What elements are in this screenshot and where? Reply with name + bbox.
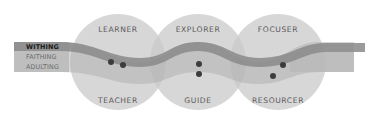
label-explorer: EXPLORER [176, 25, 221, 34]
band-label-adulting: ADULTING [26, 63, 59, 71]
dot [196, 71, 202, 77]
dot [108, 59, 114, 65]
dot [120, 62, 126, 68]
label-resourcer: RESOURCER [252, 96, 304, 105]
dot [280, 62, 286, 68]
label-focuser: FOCUSER [258, 25, 298, 34]
label-teacher: TEACHER [97, 96, 138, 105]
roles-venn-diagram: LEARNER TEACHER EXPLORER GUIDE FOCUSER R… [0, 0, 379, 125]
band-label-withing: WITHING [26, 43, 59, 51]
dot [196, 61, 202, 67]
label-learner: LEARNER [98, 25, 138, 34]
band-label-faithing: FAITHING [26, 53, 56, 61]
label-guide: GUIDE [184, 96, 211, 105]
dot [270, 73, 276, 79]
